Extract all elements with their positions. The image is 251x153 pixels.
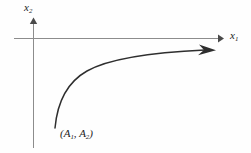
initial-point-first-subscript: 1 (70, 133, 73, 140)
arrow-right-icon (218, 35, 224, 43)
initial-point-second-base: A (79, 127, 86, 139)
initial-point-second-subscript: 2 (86, 133, 89, 140)
axis-label-x2-subscript: 2 (29, 7, 32, 14)
arrow-up-icon (30, 18, 37, 25)
initial-point-close-paren: ) (89, 127, 93, 139)
trajectory-curve (55, 50, 205, 128)
axis-label-x1-subscript: 1 (235, 35, 238, 42)
axis-label-x1: x1 (230, 30, 238, 41)
vertical-axis (30, 18, 37, 149)
initial-point-label: (A1, A2) (60, 128, 93, 139)
figure-canvas (0, 0, 251, 153)
trajectory-group (55, 45, 216, 129)
horizontal-axis (14, 35, 224, 43)
axis-label-x2: x2 (24, 2, 32, 13)
phase-plane-figure: x2 x1 (A1, A2) (0, 0, 251, 153)
